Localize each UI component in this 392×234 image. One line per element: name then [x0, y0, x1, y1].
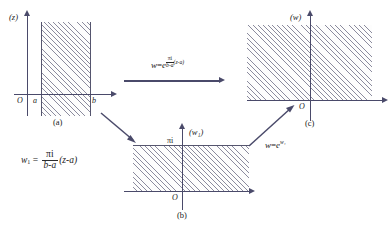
map-formula-left: w1 = πib-a(z-a)	[21, 150, 77, 171]
map-left-tail: (z-a)	[59, 155, 77, 165]
map-left-denominator: b-a	[42, 161, 59, 171]
panel-a-origin-label: O	[17, 97, 23, 105]
panel-c-real-axis	[247, 100, 383, 101]
panel-a-real-axis	[14, 94, 112, 95]
panel-a-strip-right-edge	[90, 22, 91, 116]
panel-b-plane-label: (w₁)	[189, 128, 203, 137]
panel-c-real-axis-arrow	[382, 97, 388, 103]
map-left-eq: =	[33, 155, 38, 165]
panel-a-label: (a)	[53, 118, 62, 127]
panel-b-label: (b)	[177, 211, 187, 220]
panel-a-tick-b: b	[92, 97, 96, 105]
map-top-exp-denominator: b-a	[166, 63, 173, 69]
map-arrow-top-line	[124, 80, 220, 82]
panel-b-real-axis-arrow	[249, 188, 255, 194]
map-right-exponent: w₁	[280, 139, 286, 145]
panel-c-origin-label: O	[299, 103, 305, 111]
panel-c-label: (c)	[305, 119, 314, 128]
panel-b-tick-pi-i: πi	[167, 137, 173, 145]
panel-c-imaginary-axis	[310, 16, 311, 121]
panel-a-imaginary-axis	[27, 16, 28, 116]
map-top-exp-tail: (z-a)	[174, 59, 185, 65]
panel-a-hatched-strip	[41, 22, 91, 116]
panel-a-plane-label: (z)	[9, 13, 18, 22]
conformal-mapping-figure: (z) O a b (a) w=eπib-a(z-a) w1 = πib-a(z…	[0, 0, 392, 234]
panel-c-plane-label: (w)	[290, 13, 301, 22]
map-top-exponent-fraction: πib-a	[166, 56, 173, 68]
panel-a-strip-left-edge	[41, 22, 42, 116]
panel-a-tick-a: a	[33, 97, 37, 105]
map-formula-right: w=ew₁	[265, 140, 286, 150]
panel-b-imaginary-axis	[182, 129, 183, 210]
panel-b-imaginary-axis-arrow	[179, 123, 185, 129]
panel-b-strip-top-edge	[133, 145, 249, 146]
panel-a-real-axis-arrow	[111, 91, 117, 97]
panel-b-hatched-strip	[133, 145, 249, 192]
map-left-lhs-sub: 1	[27, 159, 30, 165]
map-left-fraction: πib-a	[42, 150, 59, 171]
panel-a-imaginary-axis-arrow	[24, 10, 30, 16]
panel-c-imaginary-axis-arrow	[307, 10, 313, 16]
map-arrow-top-head	[219, 77, 225, 83]
panel-b-origin-label: O	[172, 194, 178, 202]
map-formula-top: w=eπib-a(z-a)	[151, 56, 184, 70]
panel-b-real-axis	[124, 191, 250, 192]
